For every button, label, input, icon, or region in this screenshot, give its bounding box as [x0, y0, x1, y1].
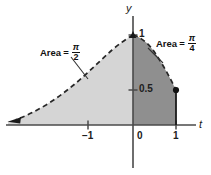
- y-tick-label-0-5: 0.5: [139, 84, 153, 94]
- y-tick-label-1: 1: [139, 29, 145, 39]
- right-area-equals: =: [179, 39, 185, 49]
- right-area-annotation: Area = π 4: [156, 34, 196, 54]
- left-area-text: Area: [40, 48, 61, 58]
- left-area-annotation: Area = π 2: [40, 43, 80, 63]
- x-axis-label: t: [199, 119, 202, 130]
- left-area-denominator: 2: [72, 53, 79, 62]
- left-area-numerator: π: [72, 43, 80, 52]
- right-area-denominator: 4: [188, 44, 195, 53]
- x-tick-label-0: 0: [137, 131, 143, 141]
- right-area-numerator: π: [188, 34, 196, 43]
- x-tick-label-minus1: −1: [82, 131, 93, 141]
- figure-container: y t 1 0.5 −1 0 1 Area = π 2 Area = π 4: [0, 0, 211, 175]
- left-area-fraction: π 2: [72, 43, 80, 63]
- x-tick-label-1: 1: [173, 131, 179, 141]
- right-area-fraction: π 4: [188, 34, 196, 54]
- endpoint-dot: [173, 87, 179, 93]
- y-axis-label: y: [126, 3, 132, 14]
- plot-canvas: [0, 0, 211, 175]
- left-area-equals: =: [63, 48, 69, 58]
- right-area-text: Area: [156, 39, 177, 49]
